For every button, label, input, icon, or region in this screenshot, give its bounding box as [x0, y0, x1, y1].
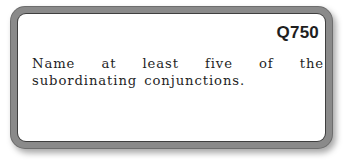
- question-id-label: Q750: [277, 23, 319, 43]
- question-text: Name at least five of the subordinating …: [32, 55, 324, 89]
- card-face: Q750 Name at least five of the subordina…: [18, 14, 325, 141]
- flashcard: Q750 Name at least five of the subordina…: [10, 6, 333, 149]
